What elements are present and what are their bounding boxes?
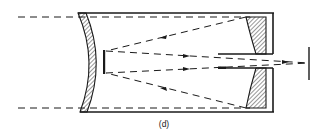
ray-arrows [160,35,289,91]
primary-mirror-bottom [246,68,266,108]
telescope-diagram [0,0,326,138]
incoming-rays [18,17,250,108]
figure-caption: (d) [152,119,176,129]
corrector-plate [78,13,96,112]
baffle-tube [218,54,273,68]
tube [78,13,274,112]
secondary-mirror [103,50,105,74]
reflected-rays [106,17,309,108]
primary-mirror-top [246,17,266,54]
